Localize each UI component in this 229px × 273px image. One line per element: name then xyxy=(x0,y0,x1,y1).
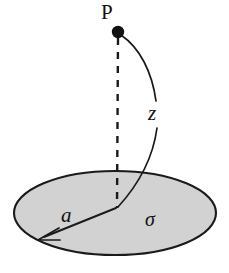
charged-disk xyxy=(14,171,216,255)
label-charge-density-sigma: σ xyxy=(145,209,155,229)
physics-diagram-charged-disk: P z a σ xyxy=(0,0,229,273)
label-height-z: z xyxy=(148,103,156,124)
label-radius-a: a xyxy=(61,205,72,226)
height-indicator-curve-upper xyxy=(121,35,156,101)
label-point-p: P xyxy=(101,2,113,23)
field-point-p xyxy=(112,26,124,38)
vertical-axis-dashed-line xyxy=(117,38,118,208)
diagram-canvas xyxy=(0,0,229,273)
